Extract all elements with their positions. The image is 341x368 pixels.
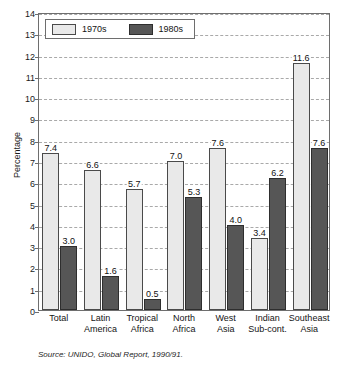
y-tick-label-14: 14: [25, 9, 35, 19]
bar-group: 11.67.6: [289, 14, 331, 310]
bar-value-label: 5.7: [127, 179, 142, 189]
bar-1970s-north-africa[interactable]: 7.0: [167, 161, 184, 310]
legend-item-1980s: 1980s: [129, 24, 184, 35]
bar-1980s-north-africa[interactable]: 5.3: [185, 197, 202, 310]
x-category-line: America: [80, 324, 122, 335]
bar-group: 6.61.6: [81, 14, 123, 310]
y-tick-label-10: 10: [25, 94, 35, 104]
legend-item-1970s: 1970s: [52, 24, 107, 35]
bar-1980s-indian-sub-cont-[interactable]: 6.2: [269, 178, 286, 310]
bar-1980s-latin-america[interactable]: 1.6: [102, 276, 119, 310]
x-category-label-1: LatinAmerica: [80, 313, 122, 335]
chart-figure: Percentage 14131211109876543210 7.43.06.…: [0, 0, 341, 368]
x-category-label-0: Total: [38, 313, 80, 324]
bar-value-label: 7.4: [44, 143, 59, 153]
bar-1970s-indian-sub-cont-[interactable]: 3.4: [251, 238, 268, 310]
bar-1980s-west-asia[interactable]: 4.0: [227, 225, 244, 310]
bar-series-layer: 7.43.06.61.65.70.57.05.37.64.03.46.211.6…: [39, 14, 329, 310]
bar-group: 5.70.5: [122, 14, 164, 310]
y-tick-label-11: 11: [26, 73, 35, 83]
bar-1970s-southeast-asia[interactable]: 11.6: [293, 63, 310, 310]
bar-group: 7.05.3: [164, 14, 206, 310]
bar-1970s-latin-america[interactable]: 6.6: [84, 170, 101, 310]
x-category-label-6: SoutheastAsia: [288, 313, 330, 335]
x-category-line: West: [205, 313, 247, 324]
x-category-line: Tropical: [121, 313, 163, 324]
legend: 1970s 1980s: [45, 19, 195, 39]
bar-1980s-total[interactable]: 3.0: [60, 246, 77, 310]
bar-value-label: 0.5: [145, 289, 160, 299]
x-category-line: Asia: [205, 324, 247, 335]
x-category-label-5: IndianSub-cont.: [247, 313, 289, 335]
x-category-label-4: WestAsia: [205, 313, 247, 335]
bar-value-label: 11.6: [292, 53, 311, 63]
x-category-label-2: TropicalAfrica: [121, 313, 163, 335]
x-category-line: Latin: [80, 313, 122, 324]
legend-label-1980s: 1980s: [159, 24, 184, 34]
bar-1970s-tropical-africa[interactable]: 5.7: [126, 189, 143, 310]
bar-value-label: 7.6: [210, 138, 225, 148]
legend-swatch-1970s: [52, 24, 76, 35]
bar-value-label: 6.2: [270, 168, 285, 178]
legend-label-1970s: 1970s: [82, 24, 107, 34]
x-category-line: Asia: [288, 324, 330, 335]
y-tick-label-13: 13: [25, 30, 35, 40]
bar-value-label: 1.6: [103, 266, 118, 276]
x-category-label-3: NorthAfrica: [163, 313, 205, 335]
source-note: Source: UNIDO, Global Report, 1990/91.: [38, 350, 183, 359]
x-category-line: Africa: [163, 324, 205, 335]
x-category-line: Africa: [121, 324, 163, 335]
y-axis-title: Percentage: [12, 110, 22, 200]
x-category-line: Sub-cont.: [247, 324, 289, 335]
bar-value-label: 7.0: [169, 151, 184, 161]
x-category-line: Total: [38, 313, 80, 324]
bar-group: 7.43.0: [39, 14, 81, 310]
legend-swatch-1980s: [129, 24, 153, 35]
bar-value-label: 5.3: [187, 187, 202, 197]
bar-1970s-west-asia[interactable]: 7.6: [209, 148, 226, 310]
bar-group: 3.46.2: [248, 14, 290, 310]
cut-off-title-remnant: [62, 0, 202, 4]
bar-1980s-southeast-asia[interactable]: 7.6: [311, 148, 328, 310]
bar-1970s-total[interactable]: 7.4: [42, 153, 59, 311]
bar-group: 7.64.0: [206, 14, 248, 310]
x-axis-category-labels: TotalLatinAmericaTropicalAfricaNorthAfri…: [38, 313, 330, 343]
bar-value-label: 7.6: [312, 138, 327, 148]
y-tick-label-12: 12: [25, 52, 35, 62]
bar-value-label: 6.6: [85, 160, 100, 170]
bar-value-label: 4.0: [228, 215, 243, 225]
plot-area: 14131211109876543210 7.43.06.61.65.70.57…: [38, 13, 330, 311]
bar-value-label: 3.4: [252, 228, 267, 238]
bar-value-label: 3.0: [62, 236, 77, 246]
bar-1980s-tropical-africa[interactable]: 0.5: [144, 299, 161, 310]
x-category-line: Southeast: [288, 313, 330, 324]
x-category-line: Indian: [247, 313, 289, 324]
x-category-line: North: [163, 313, 205, 324]
